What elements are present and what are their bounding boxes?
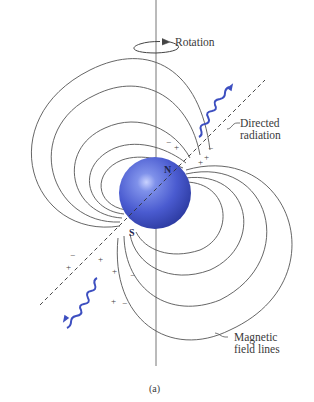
leader-directed-radiation <box>227 123 240 129</box>
magnetic-field-label-1: Magnetic <box>234 331 277 343</box>
radiation-beam-icon-lower <box>64 278 97 328</box>
directed-radiation-label-1: Directed <box>240 117 280 129</box>
svg-text:+: + <box>198 157 203 167</box>
svg-text:−: − <box>166 137 171 147</box>
directed-radiation-label-2: radiation <box>240 129 281 141</box>
magnetic-field-label-2: field lines <box>234 343 280 355</box>
north-pole-label: N <box>164 164 172 175</box>
svg-text:+: + <box>204 152 209 162</box>
svg-text:−: − <box>122 298 127 308</box>
south-pole-label: S <box>129 227 135 238</box>
rotation-label: Rotation <box>175 36 215 48</box>
svg-text:−: − <box>70 250 75 260</box>
svg-text:+: + <box>66 262 71 272</box>
svg-text:−: − <box>130 270 135 280</box>
neutron-star <box>119 157 191 229</box>
svg-text:+: + <box>98 254 103 264</box>
svg-text:+: + <box>111 296 116 306</box>
figure-caption: (a) <box>149 383 160 395</box>
svg-text:+: + <box>174 142 179 152</box>
svg-text:+: + <box>112 266 117 276</box>
